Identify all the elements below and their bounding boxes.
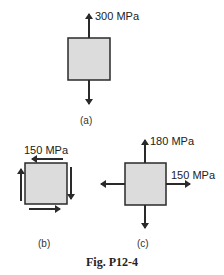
panel-b-element [21,159,71,209]
panel-label-a: (a) [80,115,92,126]
figure-caption: Fig. P12-4 [0,255,224,270]
stress-label-a: 300 MPa [95,10,139,22]
stress-label-b: 150 MPa [24,144,68,156]
panel-c-element [101,140,190,228]
panel-label-c: (c) [137,238,149,249]
stress-label-c-horizontal: 150 MPa [171,169,215,181]
panel-a-element [68,14,110,104]
figure: 300 MPa (a) 150 MPa (b) 180 MPa 150 MPa … [0,0,224,275]
stress-label-c-vertical: 180 MPa [150,135,194,147]
panel-label-b: (b) [38,238,50,249]
